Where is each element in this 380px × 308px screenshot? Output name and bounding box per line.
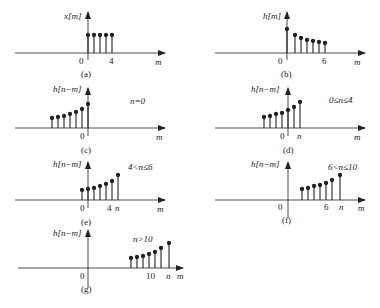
condition: n>10 [133,234,153,244]
tick-4: 4 [107,203,112,213]
tick-n: n [297,131,302,141]
y-label: x[m] [63,11,82,21]
condition: n=0 [130,96,146,106]
tick-0: 0 [280,131,285,141]
x-label: m [354,132,361,142]
condition: 0≤n≤4 [329,95,353,105]
tick-n: n [339,202,344,212]
caption: (g) [81,284,92,294]
tick-0: 0 [79,56,84,66]
tick-0: 0 [80,271,85,281]
tick-6: 6 [322,56,327,66]
y-label: h[m] [263,11,282,21]
tick-n: n [115,203,120,213]
x-label: m [156,132,163,142]
stems [80,173,119,200]
stems [129,241,170,268]
x-label: m [155,57,162,67]
stems [262,100,301,128]
tick-n: n [166,271,171,281]
tick-0: 0 [278,202,283,212]
caption: (c) [81,145,91,155]
y-label: h[n−m] [251,84,280,94]
stems [285,27,326,53]
y-label: h[n−m] [53,84,82,94]
tick-0: 0 [80,131,85,141]
panel-f: h[n−m] 6<n≤10 0 6 n m (f) [215,159,365,225]
caption: (b) [281,69,292,79]
stems [86,33,113,53]
caption: (f) [282,215,291,225]
x-label: m [358,203,365,213]
panel-c: h[n−m] n=0 0 m (c) [15,84,165,155]
y-label: h[n−m] [251,159,280,169]
tick-10: 10 [146,271,156,281]
condition: 4<n≤6 [128,162,153,172]
stems [50,102,89,128]
caption: (d) [283,145,294,155]
tick-0: 0 [80,203,85,213]
tick-4: 4 [109,56,114,66]
tick-0: 0 [278,56,283,66]
y-label: h[n−m] [53,159,82,169]
panel-b: h[m] 0 6 m (b) [215,11,365,79]
tick-6: 6 [324,202,329,212]
condition: 6<n≤10 [328,162,358,172]
panel-e: h[n−m] 4<n≤6 0 4 n m (e) [15,159,165,227]
caption: (e) [81,217,91,227]
x-label: m [157,204,164,214]
x-label: m [354,57,361,67]
panel-d: h[n−m] 0≤n≤4 0 n m (d) [215,84,365,155]
caption: (a) [81,69,91,79]
x-label: m [177,271,184,281]
panel-g: h[n−m] n>10 0 10 n m (g) [18,228,184,294]
convolution-diagram: x[m] 0 4 m (a) h[m] 0 6 m (b) [0,0,380,308]
y-label: h[n−m] [53,228,82,238]
stems [300,173,341,200]
panel-a: x[m] 0 4 m (a) [15,11,165,79]
